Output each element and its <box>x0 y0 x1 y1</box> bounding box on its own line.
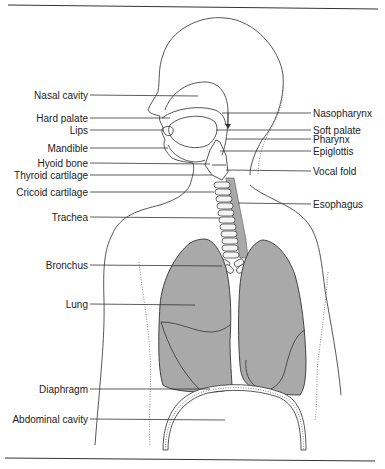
label-thyroid-cartilage: Thyroid cartilage <box>14 170 88 181</box>
label-lips: Lips <box>70 125 88 136</box>
top-rule <box>8 5 378 9</box>
torso-left-outline <box>95 205 160 445</box>
label-lung: Lung <box>66 299 88 310</box>
nasal-cavity-shape <box>165 82 228 155</box>
diaphragm-shape <box>163 385 306 450</box>
left-arm-edge <box>139 262 151 445</box>
label-diaphragm: Diaphragm <box>39 384 88 395</box>
tongue-shape <box>169 116 217 147</box>
left-lung <box>159 239 232 392</box>
label-cricoid-cartilage: Cricoid cartilage <box>16 187 88 198</box>
label-epiglottis: Epiglottis <box>313 146 354 157</box>
respiratory-diagram: Nasal cavity Hard palate Lips Mandible H… <box>0 0 385 469</box>
label-mandible: Mandible <box>47 143 88 154</box>
right-arm-edge <box>315 272 328 420</box>
right-lung <box>239 240 307 395</box>
label-nasopharynx: Nasopharynx <box>313 108 372 119</box>
label-pharynx: Pharynx <box>313 134 350 145</box>
arrow-head-icon <box>225 124 231 129</box>
label-abdominal-cavity: Abdominal cavity <box>12 414 88 425</box>
label-hard-palate: Hard palate <box>36 113 88 124</box>
skull-back <box>258 75 283 175</box>
label-vocal-fold: Vocal fold <box>313 166 356 177</box>
label-nasal-cavity: Nasal cavity <box>34 90 88 101</box>
label-esophagus: Esophagus <box>313 199 363 210</box>
bottom-rule <box>5 458 375 461</box>
label-bronchus: Bronchus <box>46 260 88 271</box>
label-hyoid-bone: Hyoid bone <box>37 158 88 169</box>
label-trachea: Trachea <box>52 212 89 223</box>
